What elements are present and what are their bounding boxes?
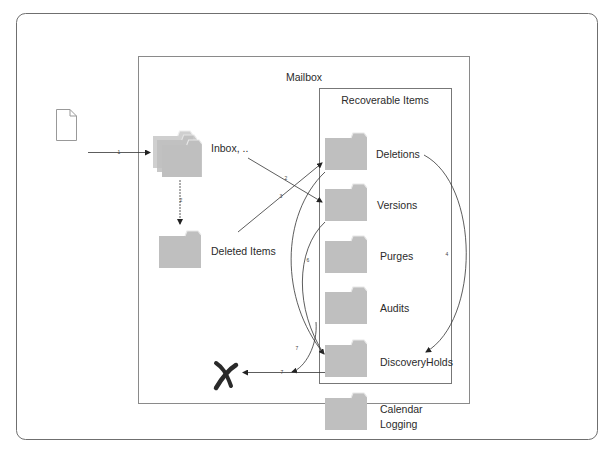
edge-1: 1 xyxy=(88,149,150,155)
diagram-canvas: Mailbox Recoverable Items 1 Inbox, .. 2 … xyxy=(0,0,614,450)
svg-text:7: 7 xyxy=(296,345,299,351)
deleted-items-label: Deleted Items xyxy=(211,245,276,257)
svg-text:2: 2 xyxy=(180,197,183,203)
inbox-label: Inbox, .. xyxy=(211,142,248,154)
recoverable-items-title: Recoverable Items xyxy=(341,94,429,106)
svg-text:7: 7 xyxy=(281,369,284,375)
document-icon xyxy=(57,110,77,141)
edge-deleted-to-deletions: 3 xyxy=(238,163,322,232)
calendar-logging-folder-icon xyxy=(325,393,367,430)
recoverable-items-container: Recoverable Items xyxy=(320,89,452,384)
purges-folder-icon xyxy=(325,236,367,273)
x-mark-icon xyxy=(216,363,236,388)
versions-label: Versions xyxy=(377,199,417,211)
mailbox-container: Mailbox xyxy=(139,57,470,404)
svg-text:6: 6 xyxy=(307,257,310,263)
purges-label: Purges xyxy=(380,250,413,262)
svg-text:1: 1 xyxy=(118,149,121,155)
folder-stack-icon xyxy=(153,131,202,177)
audits-label: Audits xyxy=(380,302,409,314)
svg-text:2: 2 xyxy=(285,175,288,181)
audits-folder-icon xyxy=(325,287,367,324)
edge-2: 2 xyxy=(180,180,183,224)
discovery-holds-folder-icon xyxy=(325,340,367,377)
versions-folder-icon xyxy=(325,184,367,221)
svg-text:3: 3 xyxy=(280,193,283,199)
edge-inbox-to-versions: 2 xyxy=(248,158,322,202)
calendar-logging-label-line1: Calendar xyxy=(380,403,423,415)
discovery-holds-label: DiscoveryHolds xyxy=(380,356,453,368)
edge-4: 4 xyxy=(424,155,466,352)
svg-text:4: 4 xyxy=(446,251,449,257)
edge-7: 7 7 xyxy=(243,322,325,375)
deleted-items-folder-icon xyxy=(159,231,201,268)
mailbox-title: Mailbox xyxy=(286,71,323,83)
deletions-label: Deletions xyxy=(376,148,420,160)
deletions-folder-icon xyxy=(325,133,367,170)
calendar-logging-label-line2: Logging xyxy=(380,418,418,430)
